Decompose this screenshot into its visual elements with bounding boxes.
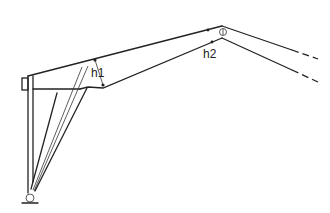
label-h1: h1: [91, 67, 104, 79]
hinge-icon: [220, 29, 227, 36]
struts: [31, 66, 88, 191]
label-h2: h2: [203, 48, 216, 60]
column-cap: [22, 78, 28, 90]
upper-chord: [28, 26, 318, 76]
pin-support-icon: [22, 194, 38, 203]
column: [28, 76, 33, 193]
frame-diagram: [0, 0, 330, 213]
h2-dimension: [207, 29, 214, 44]
